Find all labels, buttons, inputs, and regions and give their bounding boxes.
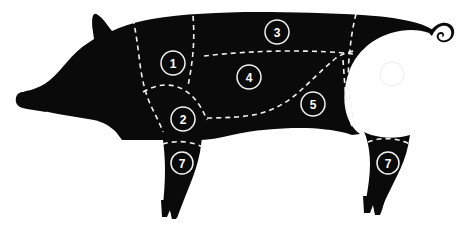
pig-tail [429,23,454,42]
marker-6-label: 6 [389,68,396,82]
pig-front-hoof [161,200,181,219]
pig-rear-hoof [363,196,386,215]
marker-7-rear-label: 7 [385,157,392,171]
marker-5-label: 5 [310,98,317,112]
marker-1-label: 1 [170,57,177,71]
marker-7-front-label: 7 [179,157,186,171]
marker-2-label: 2 [180,113,187,127]
marker-6[interactable]: 6 [380,62,404,86]
marker-4-label: 4 [246,71,253,85]
pig-body-shape [21,12,433,140]
pig-silhouette-group [16,12,454,219]
pig-cuts-diagram: 12345677 [0,0,467,236]
marker-3-label: 3 [274,26,281,40]
pig-diagram-svg: 12345677 [0,0,467,236]
